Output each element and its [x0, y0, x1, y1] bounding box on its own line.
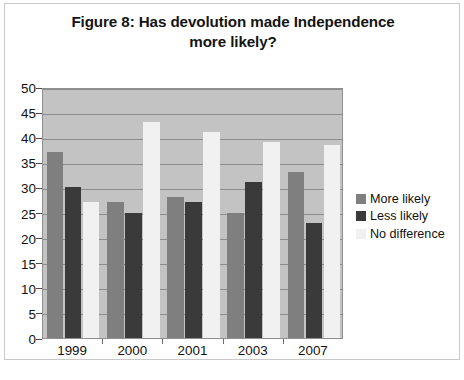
gridline — [43, 139, 342, 140]
bar — [65, 187, 82, 338]
bar — [125, 213, 142, 339]
bar — [47, 152, 64, 338]
bar — [288, 172, 305, 338]
y-axis-tick-label: 20 — [5, 231, 36, 246]
chart-title: Figure 8: Has devolution made Independen… — [19, 12, 447, 52]
y-axis-tick-label: 0 — [5, 332, 36, 347]
chart-title-line-1: Figure 8: Has devolution made Independen… — [19, 12, 447, 32]
legend-item[interactable]: Less likely — [356, 208, 460, 226]
x-axis-tick-mark — [223, 339, 224, 344]
y-axis-tick-label: 10 — [5, 281, 36, 296]
y-axis-tick-label: 15 — [5, 256, 36, 271]
bar — [306, 223, 323, 338]
legend-item[interactable]: No difference — [356, 225, 460, 243]
gridline — [43, 164, 342, 165]
y-axis-tick-label: 50 — [5, 81, 36, 96]
chart-title-line-2: more likely? — [19, 32, 447, 52]
x-axis-tick-mark — [283, 339, 284, 344]
bar — [324, 145, 341, 338]
bar — [185, 202, 202, 338]
y-axis-tick-label: 25 — [5, 206, 36, 221]
x-axis-tick-label: 1999 — [57, 343, 87, 358]
gridline — [43, 89, 342, 90]
bar — [167, 197, 184, 338]
x-axis-tick-label: 2001 — [178, 343, 208, 358]
x-axis: 19992000200120032007 — [42, 343, 343, 360]
plot-area — [42, 88, 343, 339]
legend-swatch-icon — [356, 229, 366, 239]
chart-legend: More likelyLess likelyNo difference — [356, 190, 460, 243]
legend-swatch-icon — [356, 211, 366, 221]
legend-item-label: Less likely — [370, 209, 428, 223]
y-axis-tick-label: 5 — [5, 306, 36, 321]
x-axis-tick-mark — [162, 339, 163, 344]
y-axis-tick-label: 45 — [5, 106, 36, 121]
bar — [143, 122, 160, 338]
bar — [263, 142, 280, 338]
legend-swatch-icon — [356, 194, 366, 204]
y-axis: 50454035302520151050 — [5, 88, 36, 339]
y-axis-tick-label: 30 — [5, 181, 36, 196]
bar — [245, 182, 262, 338]
x-axis-tick-mark — [102, 339, 103, 344]
x-axis-tick-label: 2007 — [298, 343, 328, 358]
bar — [203, 132, 220, 338]
bar — [107, 202, 124, 338]
bar — [227, 213, 244, 339]
gridline — [43, 114, 342, 115]
x-axis-tick-label: 2003 — [238, 343, 268, 358]
legend-item-label: More likely — [370, 192, 430, 206]
y-axis-tick-label: 40 — [5, 131, 36, 146]
bar — [83, 202, 100, 338]
legend-item-label: No difference — [370, 227, 445, 241]
figure-container: Figure 8: Has devolution made Independen… — [4, 3, 460, 360]
legend-item[interactable]: More likely — [356, 190, 460, 208]
y-axis-tick-label: 35 — [5, 156, 36, 171]
x-axis-tick-label: 2000 — [117, 343, 147, 358]
